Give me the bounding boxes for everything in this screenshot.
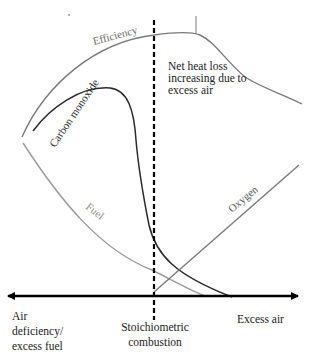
oxygen-line — [154, 165, 299, 292]
left-axis-label: Air deficiency/ excess fuel — [12, 309, 63, 354]
fuel-label: Fuel — [84, 200, 107, 222]
center-axis-label: Stoichiometric combustion — [116, 320, 194, 350]
fuel-curve — [23, 143, 205, 296]
combustion-diagram: Efficiency Carbon monoxide Fuel Oxygen — [0, 0, 309, 360]
speck-dot — [68, 14, 70, 16]
right-axis-label: Excess air — [237, 311, 284, 328]
efficiency-label: Efficiency — [91, 23, 139, 47]
net-heat-loss-annotation: Net heat loss increasing due to excess a… — [168, 60, 247, 96]
oxygen-label: Oxygen — [226, 183, 261, 215]
